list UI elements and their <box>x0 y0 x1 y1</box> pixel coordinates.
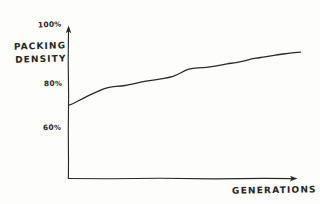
hand-drawn-chart-figure: 100% PACKING DENSITY 80% 60% GENERATIONS <box>0 0 320 204</box>
y-axis-title-line-2: DENSITY <box>15 55 67 66</box>
x-axis-title: GENERATIONS <box>232 185 317 196</box>
packing-density-curve <box>69 52 301 105</box>
y-tick-label-80: 80% <box>44 80 62 89</box>
y-tick-label-60: 60% <box>43 124 61 133</box>
y-tick-80-value: 80 <box>44 79 55 88</box>
chart-canvas <box>0 0 320 204</box>
y-tick-label-100: 100% <box>38 21 62 30</box>
y-tick-60-value: 60 <box>43 123 54 132</box>
y-axis-title: PACKING DENSITY <box>14 41 67 65</box>
y-tick-60-percent: % <box>54 124 61 132</box>
y-tick-80-percent: % <box>55 80 62 88</box>
x-axis-line <box>68 178 292 179</box>
y-axis-title-line-1: PACKING <box>14 41 67 52</box>
y-tick-100-value: 100 <box>38 20 55 30</box>
y-tick-100-percent: % <box>54 21 61 29</box>
